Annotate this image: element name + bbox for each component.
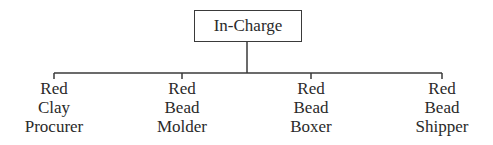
child-node-line: Bead <box>122 98 242 117</box>
child-node-line: Red <box>122 79 242 98</box>
child-node-red-bead-boxer: Red Bead Boxer <box>251 79 371 136</box>
child-node-red-bead-molder: Red Bead Molder <box>122 79 242 136</box>
root-node-in-charge: In-Charge <box>194 10 302 42</box>
child-node-line: Red <box>251 79 371 98</box>
root-node-label: In-Charge <box>214 16 283 36</box>
child-node-line: Boxer <box>251 117 371 136</box>
child-node-line: Procurer <box>0 117 114 136</box>
child-node-red-bead-shipper: Red Bead Shipper <box>382 79 493 136</box>
child-node-red-clay-procurer: Red Clay Procurer <box>0 79 114 136</box>
child-node-line: Red <box>0 79 114 98</box>
child-node-line: Bead <box>251 98 371 117</box>
child-node-line: Clay <box>0 98 114 117</box>
child-node-line: Red <box>382 79 493 98</box>
child-node-line: Shipper <box>382 117 493 136</box>
child-node-line: Bead <box>382 98 493 117</box>
child-node-line: Molder <box>122 117 242 136</box>
